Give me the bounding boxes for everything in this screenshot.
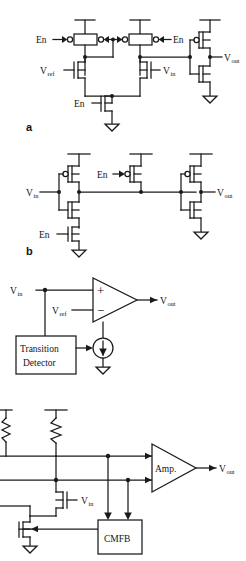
panel-a-vout-sub: out (232, 57, 240, 64)
panel-a-en-left-label: En (36, 35, 47, 45)
comparator-minus-input: − (97, 303, 104, 318)
amplifier-label: Amp. (155, 464, 176, 474)
comparator-plus-input: + (97, 283, 104, 298)
panel-b-id: b (26, 245, 33, 257)
panel-c-vout-sub: out (168, 300, 176, 307)
panel-c-vref-label: V (52, 306, 59, 316)
panel-d-vout-sub: out (227, 468, 235, 475)
panel-c-vin-label: V (10, 286, 17, 296)
panel-a-en-right-label: En (173, 35, 184, 45)
panel-d-schematic: V in Amp. V out CMFB (0, 396, 246, 561)
panel-b-schematic: V in En En V out b (0, 142, 246, 267)
panel-a-en-tail-label: En (74, 99, 85, 109)
cmfb-block-label: CMFB (104, 534, 130, 544)
panel-c-vin-sub: in (18, 290, 24, 297)
panel-a-vin-label: V (163, 66, 170, 76)
panel-b-vin-sub: in (34, 192, 40, 199)
panel-a-vref-sub: ref (48, 70, 56, 77)
panel-a-id: a (26, 121, 33, 133)
panel-a-vout-label: V (224, 53, 231, 63)
panel-b-en-bottom-label: En (39, 230, 50, 240)
panel-a-vin-sub: in (171, 70, 177, 77)
panel-c-schematic: V in V ref + − V out Transition Detector (0, 272, 246, 390)
panel-a-schematic: En En En V ref V in V out a (0, 0, 246, 140)
panel-d-vout-label: V (219, 464, 226, 474)
transition-detector-line2: Detector (23, 358, 57, 368)
panel-c-vout-label: V (160, 296, 167, 306)
transition-detector-line1: Transition (20, 344, 59, 354)
panel-d-vin-sub: in (89, 500, 95, 507)
panel-d-vin-label: V (81, 496, 88, 506)
panel-a-vref-label: V (40, 66, 47, 76)
panel-b-vout-label: V (217, 188, 224, 198)
panel-b-vout-sub: out (225, 192, 233, 199)
panel-b-en-mid-label: En (97, 170, 108, 180)
panel-b-vin-label: V (26, 188, 33, 198)
figure-sheet: En En En V ref V in V out a (0, 0, 246, 561)
panel-c-vref-sub: ref (60, 310, 68, 317)
